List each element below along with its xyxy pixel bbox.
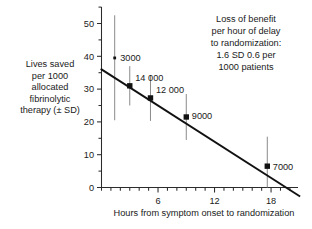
data-point-label: 3000 — [120, 53, 140, 63]
axis-lines — [102, 7, 299, 188]
y-tick-label: 40 — [84, 52, 94, 62]
data-point-marker — [113, 57, 116, 60]
data-point-marker — [184, 114, 189, 119]
x-tick-group: 61218 — [102, 188, 290, 206]
chart-figure: Lives saved per 1000 allocated fibrinoly… — [0, 0, 312, 229]
data-point-label: 7000 — [273, 162, 293, 172]
data-point-marker — [265, 163, 270, 168]
plot-area: 61218 01020304050 300014 00012 000900070… — [0, 0, 312, 229]
x-tick-label: 18 — [266, 196, 276, 206]
data-point-label: 9000 — [192, 111, 212, 121]
y-tick-label: 0 — [89, 183, 94, 193]
x-tick-label: 12 — [209, 196, 219, 206]
y-tick-label: 10 — [84, 150, 94, 160]
data-point-label: 12 000 — [156, 85, 184, 95]
y-tick-group: 01020304050 — [84, 7, 102, 193]
axes-group — [102, 7, 299, 188]
data-point-label: 14 000 — [135, 73, 163, 83]
y-tick-label: 50 — [84, 19, 94, 29]
y-tick-label: 20 — [84, 117, 94, 127]
data-point-marker — [127, 83, 132, 88]
data-point-marker — [148, 95, 153, 100]
x-tick-label: 6 — [155, 196, 160, 206]
y-tick-label: 30 — [84, 84, 94, 94]
